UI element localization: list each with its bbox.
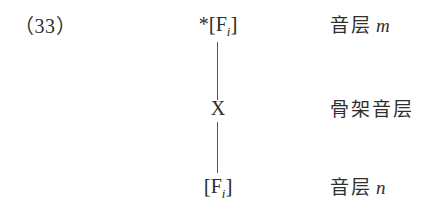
- layer-label-bottom-han: 音层: [330, 176, 372, 198]
- layer-label-middle-han: 骨架音层: [330, 98, 414, 120]
- layer-label-top: 音层m: [330, 13, 390, 38]
- node-middle-segment: X: [211, 97, 225, 119]
- layer-label-top-han: 音层: [330, 14, 372, 36]
- layer-label-middle-latin: [414, 99, 418, 120]
- node-top-asterisk: *: [199, 13, 209, 35]
- node-top: *[Fi]: [168, 12, 268, 44]
- node-bottom: [Fi]: [168, 174, 268, 201]
- layer-label-bottom-latin: n: [372, 177, 386, 198]
- layer-label-bottom: 音层n: [330, 175, 386, 200]
- tone-layer-figure: （33） *[Fi] X [Fi] 音层m 骨架音层 音层n: [0, 0, 438, 201]
- node-bottom-open-bracket: [: [204, 174, 211, 198]
- layer-label-middle: 骨架音层: [330, 97, 418, 122]
- node-top-open-bracket: [: [209, 12, 216, 36]
- node-top-close-bracket: ]: [230, 12, 237, 36]
- association-line-lower: [217, 122, 218, 173]
- association-line-upper: [217, 42, 218, 100]
- node-top-segment: F: [216, 13, 227, 35]
- node-bottom-segment: F: [211, 175, 222, 197]
- layer-label-top-latin: m: [372, 15, 390, 36]
- node-bottom-close-bracket: ]: [225, 174, 232, 198]
- node-middle: X: [168, 96, 268, 120]
- example-number: （33）: [14, 14, 76, 38]
